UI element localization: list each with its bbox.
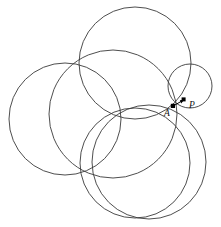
point-p-dot [182,97,186,101]
point-p-label: P [188,100,195,110]
circle-packing-diagram: A P [0,0,221,227]
bottom-right-circle [92,105,206,219]
point-a-dot [171,104,175,108]
left-circle [9,63,121,175]
bottom-circle [80,108,190,218]
figure-container: A P [0,0,221,227]
point-a-label: A [163,108,170,118]
top-circle [79,7,191,119]
